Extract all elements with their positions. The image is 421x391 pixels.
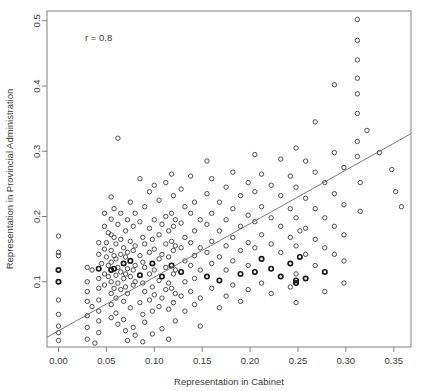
data-point xyxy=(131,268,135,272)
data-point xyxy=(253,246,257,250)
data-point xyxy=(97,286,101,290)
data-point xyxy=(97,330,101,334)
data-point xyxy=(123,255,127,259)
y-tick-label: 0.5 xyxy=(32,14,43,27)
data-point xyxy=(390,167,394,171)
data-point xyxy=(123,272,127,276)
data-point xyxy=(109,248,113,252)
data-point xyxy=(253,270,257,274)
data-point xyxy=(90,304,94,308)
data-point xyxy=(173,291,177,295)
data-point xyxy=(116,322,120,326)
data-point xyxy=(210,261,214,265)
data-point xyxy=(355,76,359,80)
data-point xyxy=(246,287,250,291)
data-point xyxy=(56,268,60,272)
data-point xyxy=(259,233,263,237)
data-point xyxy=(125,250,129,254)
data-point xyxy=(288,261,292,265)
data-point xyxy=(173,268,177,272)
data-point xyxy=(183,309,187,313)
data-point xyxy=(269,291,273,295)
data-point xyxy=(157,304,161,308)
data-point xyxy=(90,268,94,272)
data-point xyxy=(138,220,142,224)
data-point xyxy=(205,222,209,226)
data-point xyxy=(97,252,101,256)
data-point xyxy=(231,206,235,210)
data-point xyxy=(56,234,60,238)
data-point xyxy=(358,209,362,213)
data-point xyxy=(106,274,110,278)
data-point xyxy=(288,174,292,178)
data-point xyxy=(138,273,142,277)
data-point xyxy=(238,299,242,303)
data-point xyxy=(150,285,154,289)
data-point xyxy=(294,300,298,304)
data-point xyxy=(150,261,154,265)
data-point xyxy=(56,338,60,342)
data-point xyxy=(217,306,221,310)
data-point xyxy=(97,298,101,302)
data-point xyxy=(288,235,292,239)
data-point xyxy=(294,185,298,189)
data-point xyxy=(188,263,192,267)
data-point xyxy=(192,302,196,306)
data-point xyxy=(133,244,137,248)
data-point xyxy=(298,255,302,259)
data-point xyxy=(259,257,263,261)
data-point xyxy=(160,274,164,278)
data-point xyxy=(179,270,183,274)
correlation-annotation: r = 0.8 xyxy=(85,32,112,43)
data-point xyxy=(109,280,113,284)
data-point xyxy=(121,246,125,250)
data-point xyxy=(119,237,123,241)
data-point xyxy=(294,272,298,276)
data-point xyxy=(119,270,123,274)
data-point xyxy=(138,176,142,180)
data-point xyxy=(128,306,132,310)
data-point xyxy=(279,250,283,254)
data-point xyxy=(164,287,168,291)
data-point xyxy=(192,200,196,204)
data-point xyxy=(323,216,327,220)
data-point xyxy=(188,174,192,178)
data-point xyxy=(198,324,202,328)
data-point xyxy=(171,224,175,228)
data-point xyxy=(294,216,298,220)
data-point xyxy=(288,285,292,289)
data-point xyxy=(166,307,170,311)
data-point xyxy=(313,237,317,241)
data-point xyxy=(97,276,101,280)
data-point xyxy=(131,224,135,228)
data-point xyxy=(303,276,307,280)
regression-line xyxy=(47,134,411,338)
data-point xyxy=(164,180,168,184)
data-point xyxy=(85,265,89,269)
data-point xyxy=(355,111,359,115)
data-point xyxy=(313,206,317,210)
data-point xyxy=(112,235,116,239)
data-point xyxy=(171,300,175,304)
data-point xyxy=(179,246,183,250)
data-point xyxy=(269,216,273,220)
data-point xyxy=(294,244,298,248)
data-point xyxy=(238,272,242,276)
data-point xyxy=(355,17,359,21)
data-point xyxy=(102,247,106,251)
data-point xyxy=(138,253,142,257)
data-point xyxy=(125,218,129,222)
data-point xyxy=(164,214,168,218)
data-point xyxy=(141,260,145,264)
data-point xyxy=(123,229,127,233)
data-point xyxy=(143,205,147,209)
data-point xyxy=(116,222,120,226)
data-point xyxy=(141,235,145,239)
y-tick-label: 0.1 xyxy=(32,275,43,288)
data-point xyxy=(152,268,156,272)
data-point xyxy=(217,278,221,282)
data-point xyxy=(183,235,187,239)
data-point xyxy=(109,315,113,319)
data-point xyxy=(109,217,113,221)
data-point xyxy=(288,206,292,210)
